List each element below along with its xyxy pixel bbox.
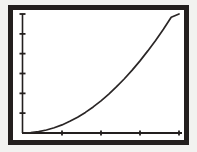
data-series-line	[23, 14, 179, 133]
plot-area	[0, 0, 197, 152]
axes-group	[22, 14, 182, 133]
chart-screenshot	[0, 0, 197, 152]
exponential-curve-chart	[0, 0, 197, 152]
